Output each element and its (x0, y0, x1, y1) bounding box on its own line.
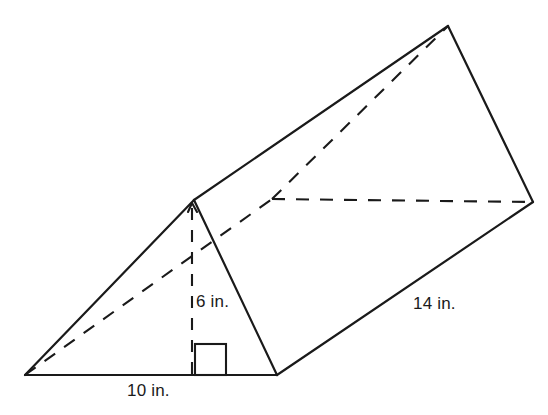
edge-top-ridge (194, 26, 448, 200)
visible-edges (25, 26, 533, 375)
height-dimension-label: 6 in. (196, 293, 229, 310)
edge-bottom-right-lateral (277, 202, 533, 375)
prism-drawing (0, 0, 548, 415)
right-angle-marker (195, 344, 226, 375)
base-dimension-label: 10 in. (127, 382, 170, 399)
triangular-prism-figure: 10 in. 6 in. 14 in. (0, 0, 548, 415)
length-dimension-label: 14 in. (413, 295, 456, 312)
hidden-edge-back-base (272, 199, 533, 202)
hidden-edge-back-left-slope (272, 26, 448, 199)
edge-front-right-slope (194, 200, 277, 375)
edge-front-left-slope (25, 200, 194, 375)
edge-back-right-slope (448, 26, 533, 202)
hidden-edges (25, 26, 533, 375)
